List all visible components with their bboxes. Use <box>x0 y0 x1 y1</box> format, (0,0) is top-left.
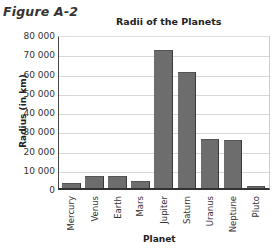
bar-earth <box>108 176 127 188</box>
x-tick-label: Saturn <box>180 196 192 236</box>
y-tick-label: 0 <box>0 185 55 195</box>
y-tick-label: 50 000 <box>0 89 55 99</box>
x-tick-label: Jupiter <box>157 196 169 236</box>
figure-label: Figure A-2 <box>3 4 78 19</box>
x-tick-label: Uranus <box>203 196 215 236</box>
bar-uranus <box>201 139 220 188</box>
bar-neptune <box>224 140 243 188</box>
y-tick-label: 80 000 <box>0 31 55 41</box>
y-tick-label: 10 000 <box>0 166 55 176</box>
x-tick-label: Mars <box>134 196 146 236</box>
y-tick-label: 70 000 <box>0 50 55 60</box>
y-tick-label: 60 000 <box>0 70 55 80</box>
plot-area <box>58 36 270 190</box>
x-tick-label: Pluto <box>249 196 261 236</box>
bar-jupiter <box>154 50 173 188</box>
y-tick-label: 20 000 <box>0 147 55 157</box>
chart-title: Radii of the Planets <box>116 16 221 27</box>
x-tick-label: Mercury <box>64 196 76 236</box>
bar-pluto <box>247 186 266 188</box>
bar-venus <box>85 176 104 188</box>
y-tick-label: 40 000 <box>0 108 55 118</box>
y-tick-label: 30 000 <box>0 127 55 137</box>
bar-saturn <box>178 72 197 188</box>
x-tick-label: Earth <box>110 196 122 236</box>
bar-mercury <box>62 183 81 188</box>
x-tick-label: Venus <box>87 196 99 236</box>
bar-mars <box>131 181 150 188</box>
x-tick-label: Neptune <box>226 196 238 236</box>
